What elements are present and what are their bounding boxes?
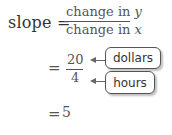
hours-label: hours [113, 76, 147, 90]
result-value: 5 [62, 104, 71, 120]
dollars-label: dollars [113, 51, 153, 65]
denominator-variable: x [135, 22, 142, 37]
fraction-denominator: change in x [66, 22, 142, 37]
dollars-callout: dollars [105, 47, 161, 69]
fraction-numerator: change in y [66, 4, 142, 19]
hours-callout: hours [105, 71, 155, 94]
step1-numerator: 20 [67, 52, 84, 67]
numerator-variable: y [135, 4, 142, 19]
numerator-text: change in [66, 4, 135, 19]
equals-sign-2: = [48, 105, 61, 123]
denominator-text: change in [66, 22, 135, 37]
step1-denominator: 4 [71, 70, 79, 85]
equals-sign-1: = [48, 59, 61, 77]
arrow-line [94, 60, 105, 61]
slope-label: slope = [8, 13, 71, 32]
arrow-line [94, 81, 105, 82]
